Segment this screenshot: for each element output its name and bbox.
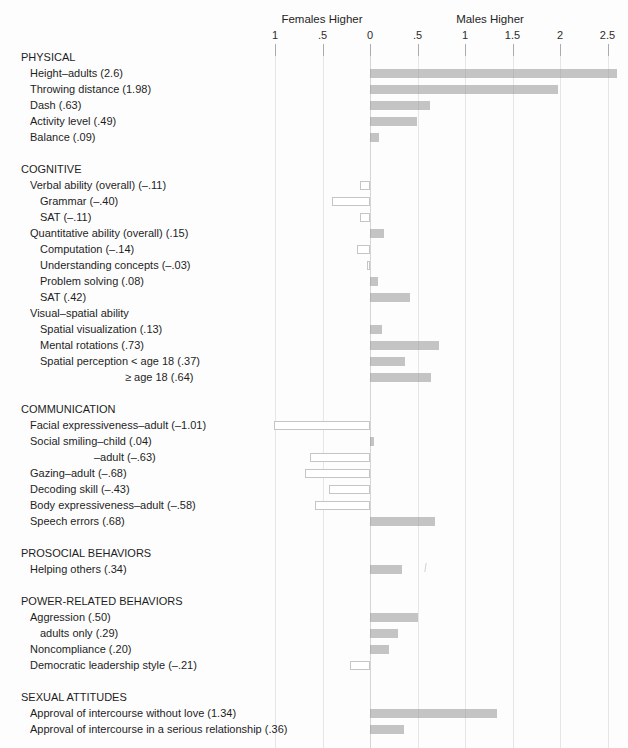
bar-males-higher [370,341,439,350]
bar-males-higher [370,133,379,142]
item-label: Verbal ability (overall) (–.11) [30,177,166,193]
item-label: SAT (.42) [40,289,86,305]
item-row: Social smiling–child (.04) [0,433,628,449]
bar-males-higher [370,69,617,78]
item-row: ≥ age 18 (.64) [0,369,628,385]
item-label: Understanding concepts (–.03) [40,257,190,273]
bar-females-higher [360,213,370,222]
item-label: Spatial visualization (.13) [40,321,162,337]
bar-males-higher [370,357,405,366]
item-row: Approval of intercourse without love (1.… [0,705,628,721]
item-label: adults only (.29) [40,625,118,641]
bar-males-higher [370,645,389,654]
item-row: Approval of intercourse in a serious rel… [0,721,628,737]
item-row: Visual–spatial ability [0,305,628,321]
item-label: Noncompliance (.20) [30,641,132,657]
bar-males-higher [370,725,404,734]
section-row: COMMUNICATION [0,401,628,417]
item-label: Mental rotations (.73) [40,337,144,353]
axis-tick-label: .5 [318,29,327,41]
item-row: Helping others (.34) [0,561,628,577]
bar-females-higher [305,469,370,478]
item-label: Visual–spatial ability [30,305,129,321]
item-label: Quantitative ability (overall) (.15) [30,225,188,241]
bar-males-higher [370,629,398,638]
bar-males-higher [370,101,430,110]
section-row: COGNITIVE [0,161,628,177]
item-label: Decoding skill (–.43) [30,481,130,497]
item-label: Problem solving (.08) [40,273,144,289]
bar-females-higher [367,261,370,270]
item-row: Computation (–.14) [0,241,628,257]
item-label: ≥ age 18 (.64) [125,369,193,385]
section-row: POWER-RELATED BEHAVIORS [0,593,628,609]
axis-tick-label: 1 [462,29,468,41]
section-label: PROSOCIAL BEHAVIORS [21,545,151,561]
item-label: Height–adults (2.6) [30,65,123,81]
section-label: COMMUNICATION [21,401,116,417]
bar-males-higher [370,565,402,574]
section-label: POWER-RELATED BEHAVIORS [21,593,183,609]
section-label: PHYSICAL [21,49,75,65]
section-label: COGNITIVE [21,161,82,177]
item-row: Facial expressiveness–adult (–1.01) [0,417,628,433]
item-row: Spatial perception < age 18 (.37) [0,353,628,369]
item-label: Gazing–adult (–.68) [30,465,127,481]
item-label: SAT (–.11) [40,209,91,225]
bar-females-higher [315,501,370,510]
bar-females-higher [332,197,370,206]
axis-tick-label: 2 [557,29,563,41]
item-row: SAT (.42) [0,289,628,305]
item-row: Speech errors (.68) [0,513,628,529]
bar-males-higher [370,517,435,526]
item-label: Helping others (.34) [30,561,127,577]
axis-tick-label: .5 [413,29,422,41]
item-row: adults only (.29) [0,625,628,641]
bar-females-higher [350,661,370,670]
bar-males-higher [370,229,384,238]
section-row: PROSOCIAL BEHAVIORS [0,545,628,561]
item-label: Throwing distance (1.98) [30,81,151,97]
item-label: Democratic leadership style (–.21) [30,657,197,673]
item-row: Understanding concepts (–.03) [0,257,628,273]
item-row: Decoding skill (–.43) [0,481,628,497]
item-row: Grammar (–.40) [0,193,628,209]
axis-tick-label: 1 [272,29,278,41]
bar-females-higher [274,421,370,430]
item-row: Height–adults (2.6) [0,65,628,81]
bar-females-higher [360,181,370,190]
item-label: Facial expressiveness–adult (–1.01) [30,417,206,433]
item-label: Activity level (.49) [30,113,116,129]
males-higher-label: Males Higher [456,13,524,25]
section-row: SEXUAL ATTITUDES [0,689,628,705]
item-row: Democratic leadership style (–.21) [0,657,628,673]
item-row: Verbal ability (overall) (–.11) [0,177,628,193]
item-row: Mental rotations (.73) [0,337,628,353]
item-label: Computation (–.14) [40,241,134,257]
section-label: SEXUAL ATTITUDES [21,689,127,705]
item-label: Aggression (.50) [30,609,111,625]
item-label: Speech errors (.68) [30,513,125,529]
item-row: Body expressiveness–adult (–.58) [0,497,628,513]
item-label: Dash (.63) [30,97,81,113]
females-higher-label: Females Higher [281,13,362,25]
item-row: SAT (–.11) [0,209,628,225]
item-row: Noncompliance (.20) [0,641,628,657]
item-row: Gazing–adult (–.68) [0,465,628,481]
item-row: Balance (.09) [0,129,628,145]
bar-males-higher [370,437,374,446]
bar-females-higher [357,245,370,254]
sex-differences-effect-size-chart: Females Higher Males Higher 1.50.511.522… [0,0,628,748]
bar-females-higher [329,485,370,494]
item-row: –adult (–.63) [0,449,628,465]
bar-males-higher [370,613,418,622]
item-row: Aggression (.50) [0,609,628,625]
item-label: Approval of intercourse without love (1.… [30,705,236,721]
item-row: Quantitative ability (overall) (.15) [0,225,628,241]
bar-males-higher [370,709,497,718]
item-label: Body expressiveness–adult (–.58) [30,497,196,513]
bar-males-higher [370,117,417,126]
bar-females-higher [310,453,370,462]
bar-males-higher [370,325,382,334]
item-row: Dash (.63) [0,97,628,113]
